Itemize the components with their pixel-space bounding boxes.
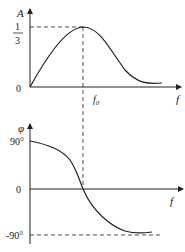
phase-x-label: f <box>170 195 175 207</box>
phase-minus-90-label: -90° <box>6 230 23 241</box>
peak-numerator: 1 <box>15 21 20 32</box>
amplitude-x-label: f <box>176 93 181 105</box>
amplitude-origin-label: 0 <box>16 83 21 94</box>
center-freq-label: f0 <box>93 94 100 107</box>
amplitude-y-label: A <box>16 7 24 19</box>
amplitude-curve <box>30 27 162 87</box>
phase-zero-label: 0 <box>16 184 21 195</box>
peak-denominator: 3 <box>15 35 20 46</box>
amplitude-plot: A 1 3 0 f0 f <box>13 7 181 186</box>
phase-curve <box>30 141 152 233</box>
phase-plot: φ 90° 0 f -90° <box>6 122 183 244</box>
frequency-response-diagram: A 1 3 0 f0 f φ 90° 0 f -90° <box>0 0 185 252</box>
phase-90-label: 90° <box>10 136 24 147</box>
phase-y-label: φ <box>18 122 24 134</box>
